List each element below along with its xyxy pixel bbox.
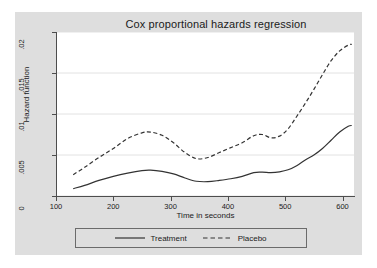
- legend-item-placebo[interactable]: Placebo: [203, 234, 267, 243]
- legend-label-treatment: Treatment: [150, 234, 186, 243]
- x-axis-title: Time in seconds: [56, 211, 355, 220]
- x-tick: [171, 197, 172, 201]
- x-tick: [113, 197, 114, 201]
- y-tick: [52, 155, 56, 156]
- series-lines: [73, 44, 352, 188]
- x-tick-label: 600: [328, 202, 358, 211]
- x-tick: [56, 197, 57, 201]
- x-tick-label: 300: [156, 202, 186, 211]
- y-tick-label: .005: [17, 155, 26, 181]
- legend: Treatment Placebo: [75, 228, 307, 248]
- figure-inner: Cox proportional hazards regression 0.00…: [15, 12, 362, 255]
- y-tick: [52, 73, 56, 74]
- legend-label-placebo: Placebo: [238, 234, 267, 243]
- x-tick-label: 400: [213, 202, 243, 211]
- legend-item-treatment[interactable]: Treatment: [115, 234, 186, 243]
- y-axis-line: [56, 32, 57, 197]
- y-axis-title: Hazard function: [22, 52, 31, 138]
- gridlines: [56, 32, 354, 196]
- x-tick: [285, 197, 286, 201]
- x-tick: [228, 197, 229, 201]
- dashed-line-icon: [203, 234, 233, 242]
- y-tick: [52, 32, 56, 33]
- plot-area: [56, 32, 354, 196]
- x-tick-label: 200: [98, 202, 128, 211]
- x-tick-label: 100: [41, 202, 71, 211]
- x-tick-label: 500: [270, 202, 300, 211]
- solid-line-icon: [115, 234, 145, 242]
- x-tick: [343, 197, 344, 201]
- series-line-treatment: [73, 125, 352, 188]
- plot-canvas: [56, 32, 354, 196]
- y-tick-label: 0: [17, 196, 26, 222]
- x-axis-line: [56, 196, 355, 197]
- y-tick: [52, 114, 56, 115]
- chart-title: Cox proportional hazards regression: [71, 18, 361, 30]
- figure-panel: Cox proportional hazards regression 0.00…: [15, 12, 362, 255]
